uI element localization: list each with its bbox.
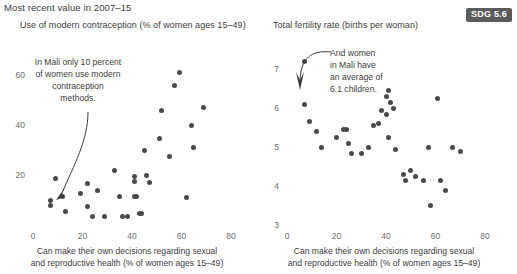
x-axis-tick: 40 [381, 231, 390, 241]
x-axis-label-right-line1: Can make their own decisions regarding s… [269, 245, 499, 257]
scatter-point [391, 106, 396, 111]
scatter-point [386, 135, 391, 140]
scatter-plot-left: 020406080204060 [0, 0, 258, 240]
scatter-point [63, 209, 68, 214]
y-axis-tick: 40 [16, 120, 25, 130]
y-axis-tick: 20 [16, 170, 25, 180]
scatter-point [401, 172, 406, 177]
scatter-point [421, 178, 426, 183]
scatter-point [201, 105, 206, 110]
y-axis-tick: 7 [274, 64, 279, 74]
x-axis-label-right-line2: and reproductive health (% of women ages… [269, 257, 499, 269]
scatter-point [319, 145, 324, 150]
scatter-point [184, 195, 189, 200]
scatter-point [48, 203, 53, 208]
scatter-point [428, 203, 433, 208]
x-axis-tick: 0 [31, 231, 36, 241]
scatter-point [144, 173, 149, 178]
scatter-point [102, 214, 107, 219]
scatter-point [408, 168, 413, 173]
scatter-point [388, 100, 393, 105]
scatter-point [334, 135, 339, 140]
annotation-right: And women in Mali have an average of 6.1… [330, 47, 416, 95]
scatter-point [435, 96, 440, 101]
scatter-point [120, 214, 125, 219]
scatter-point [167, 154, 172, 159]
scatter-point [450, 145, 455, 150]
x-axis-tick: 20 [332, 231, 341, 241]
x-axis-label-left-line1: Can make their own decisions regarding s… [12, 245, 242, 257]
x-axis-tick: 40 [127, 231, 136, 241]
y-axis-tick: 5 [274, 142, 279, 152]
scatter-point [117, 194, 122, 199]
scatter-point [384, 112, 389, 117]
scatter-point [142, 148, 147, 153]
scatter-point [53, 176, 58, 181]
scatter-point [349, 151, 354, 156]
scatter-point [147, 180, 152, 185]
scatter-point [60, 194, 65, 199]
scatter-point [90, 214, 95, 219]
scatter-point [177, 70, 182, 75]
scatter-point [443, 188, 448, 193]
y-axis-tick: 3 [274, 220, 279, 230]
scatter-point [413, 174, 418, 179]
scatter-point [191, 145, 196, 150]
scatter-point [344, 127, 349, 132]
chart-panel-contraception: Use of modern contraception (% of women … [0, 0, 258, 274]
scatter-point [125, 214, 130, 219]
x-axis-tick: 80 [226, 231, 235, 241]
scatter-point [307, 119, 312, 124]
y-axis-tick: 4 [274, 181, 279, 191]
scatter-point [346, 141, 351, 146]
x-axis-tick: 60 [177, 231, 186, 241]
scatter-point [172, 83, 177, 88]
x-axis-tick: 80 [480, 231, 489, 241]
scatter-point [426, 145, 431, 150]
scatter-point [376, 121, 381, 126]
scatter-point [189, 123, 194, 128]
scatter-point [403, 178, 408, 183]
scatter-point [314, 129, 319, 134]
scatter-point [458, 149, 463, 154]
x-axis-tick: 0 [285, 231, 290, 241]
x-axis-label-left-line2: and reproductive health (% of women ages… [12, 257, 242, 269]
scatter-point [438, 178, 443, 183]
scatter-point [85, 181, 90, 186]
scatter-point [157, 136, 162, 141]
x-axis-tick: 20 [78, 231, 87, 241]
chart-page: { "supertitle": "Most recent value in 20… [0, 0, 517, 274]
annotation-left: In Mali only 10 percent of women use mod… [18, 56, 138, 104]
scatter-point [132, 179, 137, 184]
x-axis-tick: 60 [431, 231, 440, 241]
x-axis-label-right: Can make their own decisions regarding s… [269, 245, 499, 270]
y-axis-tick: 6 [274, 103, 279, 113]
scatter-point [393, 147, 398, 152]
x-axis-label-left: Can make their own decisions regarding s… [12, 245, 242, 270]
scatter-point [302, 59, 307, 64]
scatter-point [159, 108, 164, 113]
scatter-plot-right: 02040608034567 [259, 0, 517, 240]
scatter-point [134, 194, 139, 199]
scatter-point [366, 145, 371, 150]
scatter-point [48, 198, 53, 203]
scatter-point [302, 102, 307, 107]
scatter-point [112, 168, 117, 173]
scatter-point [78, 191, 83, 196]
scatter-point [95, 188, 100, 193]
chart-panel-fertility: Total fertility rate (births per woman) … [259, 0, 517, 274]
scatter-point [85, 204, 90, 209]
scatter-point [359, 151, 364, 156]
scatter-point [379, 108, 384, 113]
scatter-point [139, 211, 144, 216]
